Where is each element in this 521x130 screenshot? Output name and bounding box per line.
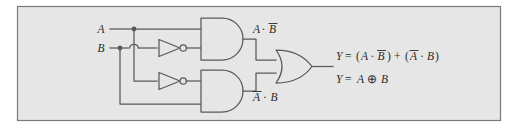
input-a-label: A	[96, 23, 105, 35]
and-bottom-output-label: A · B	[252, 91, 278, 103]
and-bottom-label-dot: ·	[263, 91, 267, 103]
and-top-label-b: B	[269, 23, 276, 35]
eq2-eq: =	[345, 73, 352, 85]
eq2-b: B	[381, 73, 388, 85]
eq1-b-bar: B	[378, 50, 385, 62]
and-top-label-a: A	[252, 23, 261, 35]
not-gate-a-bubble	[180, 78, 186, 84]
circuit-diagram-canvas: A B A · B A · B Y = ( A · B ) + ( A	[0, 0, 521, 130]
eq1-lparen1: (	[356, 50, 360, 63]
logic-circuit-figure: A B A · B A · B Y = ( A · B ) + ( A	[0, 0, 521, 130]
and-gate-bottom-body	[201, 70, 243, 112]
not-gate-b-bubble	[180, 45, 186, 51]
eq1-plus: +	[394, 50, 401, 62]
and-top-output-label: A · B	[252, 23, 278, 35]
eq2-xor: ⊕	[367, 73, 377, 85]
and-top-label-dot: ·	[262, 23, 266, 35]
and-bottom-label-a: A	[252, 91, 261, 103]
eq1-lparen2: (	[405, 50, 409, 63]
eq1-rparen1: )	[387, 50, 391, 63]
eq1-b: B	[427, 50, 434, 62]
equation-sop: Y = ( A · B ) + ( A · B )	[336, 50, 439, 63]
eq2-a: A	[356, 73, 365, 85]
eq1-dot2: ·	[420, 50, 424, 62]
eq1-eq: =	[345, 50, 352, 62]
and-gate-top-body	[201, 18, 243, 60]
junction-dot-a	[132, 27, 137, 32]
and-bottom-label-b: B	[271, 91, 278, 103]
eq1-rparen2: )	[435, 50, 439, 63]
eq1-dot1: ·	[371, 50, 375, 62]
input-b-label: B	[97, 42, 104, 54]
eq1-a-bar: A	[409, 50, 418, 62]
junction-dot-b	[118, 46, 123, 51]
eq1-a: A	[360, 50, 369, 62]
